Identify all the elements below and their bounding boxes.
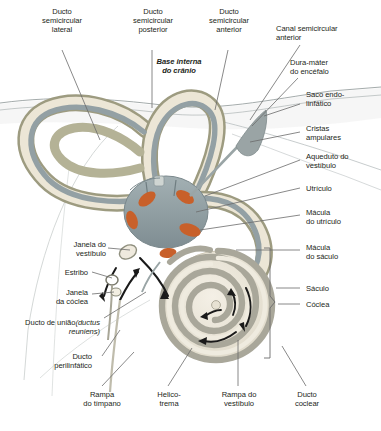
label-canal-semicircular-anterior: Canal semicircular anterior <box>276 24 380 42</box>
label-cristas-ampulares: Cristas ampulares <box>306 124 381 142</box>
label-helicotrema: Helico- trema <box>140 390 198 408</box>
leader-ducto-perilinfatico <box>102 330 120 356</box>
label-janela-do-vestibulo: Janela do vestíbulo <box>14 240 106 258</box>
label-ducto-coclear: Ducto coclear <box>278 390 336 408</box>
label-ducto-semicircular-lateral: Ducto semicircular lateral <box>14 7 110 35</box>
helicotrema-center <box>212 301 221 310</box>
label-rampa-do-timpano: Rampa do tímpano <box>66 390 138 408</box>
label-dura-mater-do-encefalo: Dura-máter do encéfalo <box>290 58 380 76</box>
vestibule <box>124 176 208 248</box>
label-macula-do-saculo: Mácula do sáculo <box>306 243 380 261</box>
cochlea <box>162 249 272 361</box>
leader-helicotrema <box>168 348 192 386</box>
leader-ducto-coclear <box>282 346 306 386</box>
label-ducto-semicircular-anterior: Ducto semicircular anterior <box>182 7 276 35</box>
label-ducto-de-uniao: Ducto de união(ductus reuniens) <box>2 318 100 336</box>
label-base-interna-do-cranio: Base interna do crânio <box>124 57 234 75</box>
label-estribo: Estribo <box>14 268 88 277</box>
label-rampa-do-vestibulo: Rampa do vestíbulo <box>204 390 274 408</box>
stapes-and-windows <box>106 242 160 392</box>
label-saco-endolinfatico: Saco endo- linfático <box>306 90 381 108</box>
label-aqueduto-do-vestibulo: Aqueduto do vestíbulo <box>306 152 381 170</box>
label-janela-da-coclea: Janela da cóclea <box>14 288 88 306</box>
label-ducto-perilinfatico: Ducto perilinfático <box>14 352 92 370</box>
label-saculo: Sáculo <box>306 284 380 293</box>
label-coclea: Cóclea <box>306 300 380 309</box>
label-utriculo: Utrículo <box>306 184 380 193</box>
label-ducto-de-uniao-main: Ducto de união <box>25 318 75 327</box>
leader-rampa-do-timpano <box>102 352 134 386</box>
label-macula-do-utriculo: Mácula do utrículo <box>306 208 380 226</box>
